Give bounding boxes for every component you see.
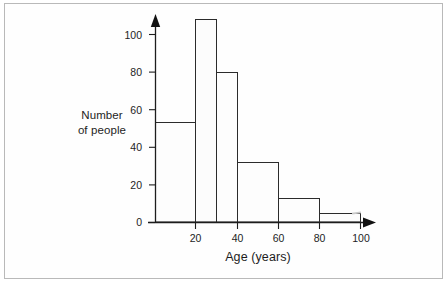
bars-group (156, 20, 361, 223)
x-tick-label-40: 40 (226, 232, 250, 244)
bar-60-80 (279, 199, 320, 223)
bar-80-100 (320, 214, 361, 223)
bar-40-60 (238, 163, 279, 223)
bar-20-30 (196, 20, 217, 223)
histogram-svg (0, 0, 448, 284)
x-tick-label-20: 20 (184, 232, 208, 244)
y-tick-label-20: 20 (118, 179, 142, 191)
x-ticks-group (196, 223, 361, 230)
x-tick-label-100: 100 (347, 232, 375, 244)
y-axis-title: Number of people (60, 108, 144, 138)
bar-0-20 (156, 123, 196, 223)
y-axis-arrow-icon (151, 14, 160, 27)
y-axis-title-line-2: of people (60, 123, 144, 138)
figure-page: 0 20 40 60 80 100 20 40 60 80 100 Number… (0, 0, 448, 284)
x-axis-arrow-icon (363, 218, 376, 228)
y-axis-title-line-1: Number (60, 108, 144, 123)
y-tick-label-100: 100 (114, 29, 142, 41)
y-tick-label-80: 80 (118, 66, 142, 78)
bar-30-40 (217, 73, 238, 223)
x-tick-label-80: 80 (308, 232, 332, 244)
x-tick-label-60: 60 (267, 232, 291, 244)
y-tick-label-0: 0 (118, 216, 142, 228)
histogram-plot-area: 0 20 40 60 80 100 20 40 60 80 100 Number… (0, 0, 448, 284)
y-tick-label-40: 40 (118, 141, 142, 153)
x-axis-title: Age (years) (168, 250, 348, 264)
y-ticks-group (149, 35, 156, 223)
